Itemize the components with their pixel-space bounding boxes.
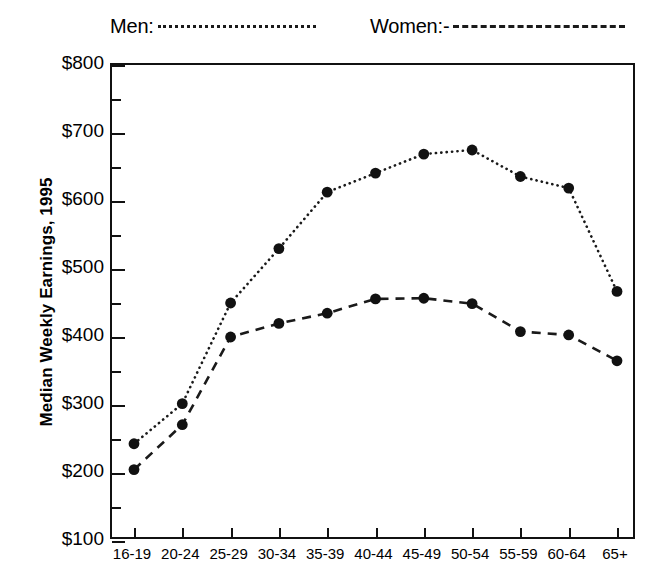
data-point	[225, 298, 236, 309]
data-point	[563, 183, 574, 194]
y-tick-minor	[112, 439, 121, 441]
x-tick-label: 30-34	[258, 546, 296, 562]
y-tick-major	[112, 201, 125, 203]
y-tick-major	[112, 133, 125, 135]
x-tick	[569, 528, 571, 537]
legend-line-sample-women-dashed	[453, 25, 625, 31]
data-point	[274, 318, 285, 329]
legend-label-men: Men:	[110, 15, 154, 38]
plot-area	[110, 63, 635, 539]
data-point	[467, 298, 478, 309]
x-tick	[134, 528, 136, 537]
x-tick	[327, 528, 329, 537]
y-tick-major	[112, 269, 125, 271]
y-tick-label: $500	[8, 257, 104, 276]
y-tick-label: $600	[8, 189, 104, 208]
data-point	[129, 438, 140, 449]
data-point	[225, 332, 236, 343]
x-axis-tick-labels: 16-1920-2425-2930-3435-3940-4445-4950-54…	[110, 546, 635, 574]
x-tick	[231, 528, 233, 537]
y-tick-label: $300	[8, 393, 104, 412]
x-tick	[617, 528, 619, 537]
data-point	[370, 168, 381, 179]
y-tick-label: $100	[8, 529, 104, 548]
x-tick	[182, 528, 184, 537]
y-tick-major	[112, 541, 125, 543]
x-tick-label: 35-39	[306, 546, 344, 562]
x-tick-label: 65+	[602, 546, 627, 562]
x-tick	[376, 528, 378, 537]
legend-entry-men: Men:	[110, 12, 316, 40]
legend-entry-women: Women:-	[370, 12, 625, 40]
data-point	[515, 171, 526, 182]
data-point	[515, 326, 526, 337]
y-tick-label: $200	[8, 461, 104, 480]
data-point	[418, 149, 429, 160]
series-men	[129, 145, 623, 450]
x-tick	[424, 528, 426, 537]
y-tick-minor	[112, 99, 121, 101]
y-tick-label: $400	[8, 325, 104, 344]
data-point	[274, 243, 285, 254]
y-tick-major	[112, 65, 125, 67]
data-point	[177, 398, 188, 409]
x-tick	[520, 528, 522, 537]
y-tick-minor	[112, 235, 121, 237]
x-tick-label: 60-64	[548, 546, 586, 562]
data-point	[467, 145, 478, 156]
data-point	[322, 308, 333, 319]
y-tick-minor	[112, 507, 121, 509]
data-point	[418, 293, 429, 304]
data-point	[129, 464, 140, 475]
earnings-by-age-chart: Men: Women:- Median Weekly Earnings, 199…	[0, 0, 658, 584]
x-tick-label: 50-54	[451, 546, 489, 562]
y-tick-minor	[112, 167, 121, 169]
y-tick-major	[112, 337, 125, 339]
data-point	[322, 187, 333, 198]
x-tick-label: 40-44	[354, 546, 392, 562]
y-tick-major	[112, 473, 125, 475]
data-point	[563, 330, 574, 341]
data-point	[177, 419, 188, 430]
series-line	[134, 298, 617, 469]
x-tick-label: 45-49	[403, 546, 441, 562]
y-tick-label: $800	[8, 53, 104, 72]
series-women	[129, 293, 623, 475]
series-plot-layer	[112, 65, 637, 541]
data-point	[612, 286, 623, 297]
legend-line-sample-men-dotted	[158, 25, 316, 31]
x-tick	[279, 528, 281, 537]
x-tick	[472, 528, 474, 537]
y-tick-major	[112, 405, 125, 407]
data-point	[612, 355, 623, 366]
x-tick-label: 20-24	[161, 546, 199, 562]
x-tick-label: 55-59	[499, 546, 537, 562]
x-tick-label: 25-29	[209, 546, 247, 562]
y-tick-minor	[112, 371, 121, 373]
y-axis-tick-labels: $100$200$300$400$500$600$700$800	[0, 0, 104, 584]
y-tick-label: $700	[8, 121, 104, 140]
series-line	[134, 150, 617, 444]
y-tick-minor	[112, 303, 121, 305]
x-tick-label: 16-19	[113, 546, 151, 562]
legend-label-women: Women:-	[370, 15, 449, 38]
data-point	[370, 294, 381, 305]
